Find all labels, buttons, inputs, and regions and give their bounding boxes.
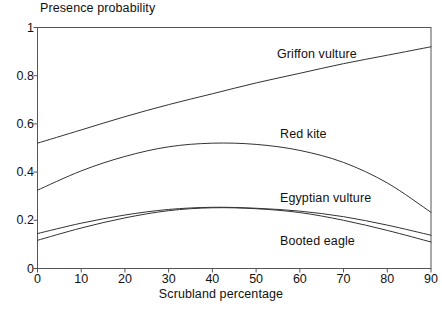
x-tick-label: 40 (205, 272, 219, 286)
series-line-griffon-vulture (38, 47, 432, 143)
x-tick-label: 30 (162, 272, 176, 286)
series-label-egyptian-vulture: Egyptian vulture (280, 191, 371, 205)
series-line-booted-eagle (38, 208, 432, 242)
x-tick-label: 10 (74, 272, 88, 286)
y-tick-label: 0.6 (0, 117, 34, 131)
x-tick-label: 20 (118, 272, 132, 286)
x-tick-label: 80 (380, 272, 394, 286)
x-tick-label: 50 (249, 272, 263, 286)
series-line-egyptian-vulture (38, 207, 432, 235)
y-tick-label: 0.8 (0, 69, 34, 83)
y-tick-label: 1 (0, 21, 34, 35)
x-tick-label: 60 (293, 272, 307, 286)
x-tick-label: 0 (34, 272, 41, 286)
y-tick-label: 0.4 (0, 165, 34, 179)
axis-frame (38, 28, 432, 269)
series-label-booted-eagle: Booted eagle (280, 234, 355, 248)
y-axis-tick-labels: 00.20.40.60.81 (0, 0, 34, 313)
y-tick-label: 0.2 (0, 213, 34, 227)
x-tick-label: 90 (424, 272, 438, 286)
plot-area (0, 0, 442, 313)
series-label-red-kite: Red kite (280, 127, 327, 141)
y-tick-label: 0 (0, 262, 34, 276)
series-label-griffon-vulture: Griffon vulture (277, 47, 357, 61)
series-lines (38, 47, 432, 242)
series-line-red-kite (38, 143, 432, 212)
x-tick-label: 70 (337, 272, 351, 286)
chart-figure: Presence probability 00.20.40.60.81 0102… (0, 0, 442, 313)
axis-ticks (34, 28, 432, 273)
x-axis-title: Scrubland percentage (0, 287, 442, 301)
